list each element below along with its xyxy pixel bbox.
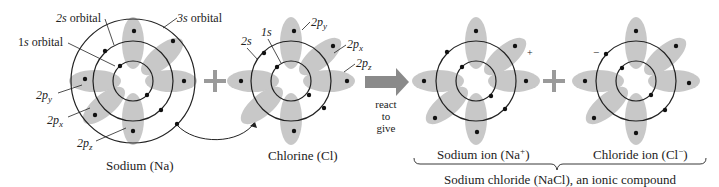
- ionic-bond-diagram: 2s orbital 3s orbital 1s orbital 2py 2px…: [0, 0, 719, 187]
- reaction-text-3: give: [377, 122, 396, 134]
- label-3s-orbital: 3s orbital: [176, 11, 223, 25]
- chloride-ion-name: Chloride ion (Cl−): [593, 146, 688, 162]
- label-2px: 2px: [347, 37, 363, 53]
- label-2px: 2px: [47, 113, 63, 129]
- label-2py: 2py: [36, 88, 52, 104]
- label-1s-orbital: 1s orbital: [18, 35, 64, 49]
- sodium-ion-charge: +: [527, 47, 533, 58]
- label-2s-orbital: 2s orbital: [56, 11, 102, 25]
- chloride-ion-charge: −: [593, 46, 599, 58]
- plus-sign-2: [543, 70, 565, 92]
- sodium-ion: [412, 17, 540, 145]
- label-2pz: 2pz: [77, 136, 93, 152]
- electron-transfer-arrow: [177, 122, 255, 140]
- label-2pz: 2pz: [356, 56, 372, 72]
- chlorine-name: Chlorine (Cl): [268, 148, 338, 163]
- reaction-arrow: [365, 68, 409, 96]
- reaction-text-2: to: [382, 110, 391, 122]
- sodium-name: Sodium (Na): [106, 158, 174, 173]
- label-2s: 2s: [241, 34, 252, 48]
- compound-label: Sodium chloride (NaCl), an ionic compoun…: [444, 172, 676, 187]
- label-2py: 2py: [311, 15, 327, 31]
- reaction-text-1: react: [375, 98, 396, 110]
- plus-sign-1: [204, 70, 226, 92]
- sodium-ion-name: Sodium ion (Na+): [437, 146, 529, 162]
- label-1s: 1s: [261, 25, 272, 39]
- chloride-ion: [572, 17, 700, 145]
